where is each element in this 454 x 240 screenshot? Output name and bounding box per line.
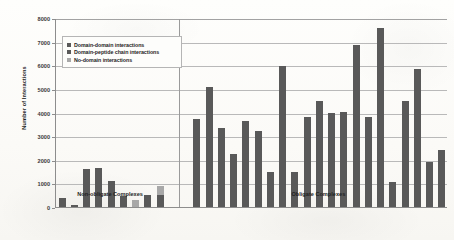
bar-obligate-2	[206, 87, 213, 207]
y-tick-label-2000: 2000	[10, 158, 50, 164]
bar-non-obligate-1	[59, 198, 66, 207]
y-tick-label-4000: 4000	[10, 110, 50, 116]
legend-swatch-icon	[67, 58, 71, 62]
bar-obligate-16	[377, 28, 384, 207]
bar-obligate-18	[402, 101, 409, 207]
legend: Domain-domain interactionsDomain-peptide…	[62, 36, 182, 68]
bar-obligate-14	[353, 45, 360, 207]
bar-obligate-19	[414, 69, 421, 207]
y-tick-label-5000: 5000	[10, 87, 50, 93]
legend-label: Domain-peptide chain interactions	[74, 49, 159, 55]
bar-obligate-1	[193, 119, 200, 207]
bar-obligate-3	[218, 128, 225, 207]
bar-obligate-8	[279, 66, 286, 207]
x-group-label-obligate: Obligate Complexes	[258, 191, 378, 197]
bar-non-obligate-6	[120, 196, 127, 207]
y-tick-label-6000: 6000	[10, 63, 50, 69]
y-tick-label-1000: 1000	[10, 181, 50, 187]
legend-item-2[interactable]: Domain-peptide chain interactions	[67, 49, 177, 55]
y-tick-label-7000: 7000	[10, 39, 50, 45]
bar-non-obligate-2	[71, 205, 78, 207]
bar-non-obligate-4	[95, 168, 102, 207]
legend-label: Domain-domain interactions	[74, 42, 144, 48]
y-tick-label-8000: 8000	[10, 16, 50, 22]
bar-obligate-5	[242, 121, 249, 207]
bar-obligate-17	[389, 182, 396, 208]
bar-chart: 800070006000500040003000200010000 Number…	[0, 0, 454, 240]
y-tick-mark-0	[52, 208, 55, 209]
legend-item-1[interactable]: Domain-domain interactions	[67, 42, 177, 48]
legend-label: No-domain interactions	[74, 57, 132, 63]
y-tick-label-0: 0	[10, 205, 50, 211]
bar-obligate-21	[438, 150, 445, 207]
bar-obligate-7	[267, 172, 274, 207]
x-group-label-non-obligate: Non-obligate Complexes	[50, 191, 170, 197]
bar-obligate-4	[230, 154, 237, 207]
bar-obligate-9	[291, 172, 298, 207]
y-axis-title: Number of Interactions	[21, 66, 27, 129]
bar-non-obligate-7	[132, 200, 139, 207]
y-tick-label-3000: 3000	[10, 134, 50, 140]
legend-swatch-icon	[67, 43, 71, 47]
legend-swatch-icon	[67, 50, 71, 54]
bar-obligate-20	[426, 162, 433, 207]
y-axis: 800070006000500040003000200010000	[0, 0, 55, 189]
bar-non-obligate-3	[83, 169, 90, 207]
legend-item-3[interactable]: No-domain interactions	[67, 57, 177, 63]
